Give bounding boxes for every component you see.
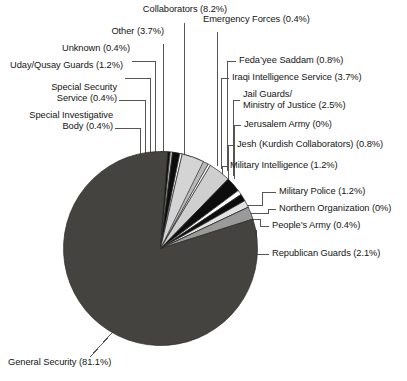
label-emergency-forces: Emergency Forces (0.4%) (203, 14, 310, 25)
label-fedayee-saddam: Feda’yee Saddam (0.8%) (239, 55, 343, 66)
label-jesh-kurdish-collaborators: Jesh (Kurdish Collaborators) (0.8%) (237, 139, 383, 150)
label-unknown: Unknown (0.4%) (10, 43, 130, 54)
leader-iraqi-intelligence-service (222, 78, 230, 169)
label-other: Other (3.7%) (12, 26, 164, 37)
label-northern-organization: Northern Organization (0%) (279, 203, 391, 214)
label-special-security-service-line1: Special Security (6, 82, 117, 93)
label-military-police: Military Police (1.2%) (279, 186, 365, 197)
leader-uday-qusay-guards (125, 78, 151, 157)
leader-special-security-service (119, 100, 146, 159)
label-jail-guards-line2: Ministry of Justice (2.5%) (243, 100, 346, 111)
label-uday-qusay-guards: Uday/Qusay Guards (1.2%) (2, 60, 123, 71)
leader-unknown (132, 61, 156, 155)
label-special-security-service-line2: Service (0.4%) (6, 93, 117, 104)
label-republican-guards: Republican Guards (2.1%) (272, 248, 380, 259)
label-special-investigative-body-line1: Special Investigative (0, 110, 113, 121)
label-special-investigative-body-line2: Body (0.4%) (0, 121, 113, 132)
pie-chart-figure: Collaborators (8.2%) Other (3.7%) Unknow… (0, 0, 407, 381)
label-iraqi-intelligence-service: Iraqi Intelligence Service (3.7%) (232, 72, 362, 83)
label-military-intelligence: Military Intelligence (1.2%) (230, 160, 338, 171)
label-peoples-army: People’s Army (0.4%) (272, 220, 360, 231)
label-jerusalem-army: Jerusalem Army (0%) (244, 119, 332, 130)
label-general-security: General Security (81.1%) (8, 357, 111, 368)
pie-slices-group (64, 152, 258, 346)
label-jail-guards-line1: Jail Guards/ (243, 89, 292, 100)
